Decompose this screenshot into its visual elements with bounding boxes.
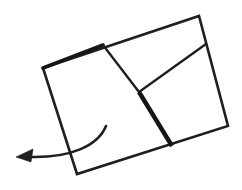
figure-root: Tilted rectangle fold diagram with rotat…: [0, 0, 242, 190]
diagram-background: [0, 0, 242, 190]
fold-diagram-svg: Tilted rectangle fold diagram with rotat…: [0, 0, 242, 190]
